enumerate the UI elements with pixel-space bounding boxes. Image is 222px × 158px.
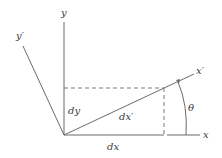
dx-label: dx xyxy=(107,142,119,152)
y-prime-axis-label: y′ xyxy=(16,31,24,41)
theta-angle-arc xyxy=(178,82,186,135)
coordinate-rotation-diagram: y y′ x′ x dy dx′ dx θ xyxy=(0,0,222,158)
theta-label: θ xyxy=(188,103,194,113)
y-axis-label: y xyxy=(61,8,67,18)
x-prime-axis-label: x′ xyxy=(196,66,204,76)
x-axis-label: x xyxy=(203,130,209,140)
dy-label: dy xyxy=(68,106,80,116)
x-prime-axis-line xyxy=(64,74,194,135)
dx-prime-label: dx′ xyxy=(119,112,133,122)
diagram-canvas xyxy=(0,0,222,158)
y-prime-axis-line xyxy=(23,46,64,135)
